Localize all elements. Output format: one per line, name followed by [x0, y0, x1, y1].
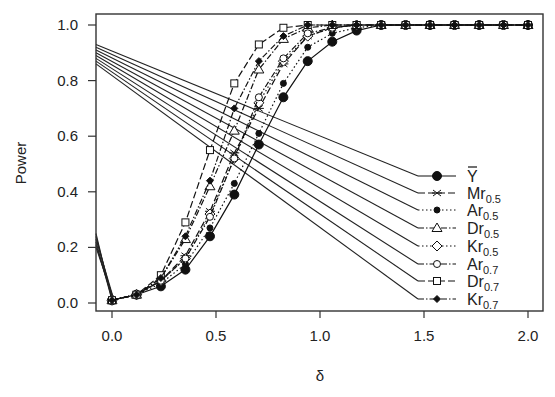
- marker-filled-circle: [303, 57, 312, 66]
- marker-dot: [434, 207, 440, 213]
- legend-label-subscript: 0.5: [483, 210, 498, 222]
- marker-square: [182, 219, 189, 226]
- marker-square: [206, 147, 213, 154]
- x-tick-label: 1.5: [414, 327, 435, 344]
- marker-open-circle: [304, 30, 311, 37]
- marker-filled-circle: [230, 190, 239, 199]
- marker-dot: [256, 130, 262, 136]
- legend-label-main: Dr: [467, 273, 485, 290]
- x-tick-label: 2.0: [518, 327, 539, 344]
- legend-label-main: Y: [467, 168, 478, 185]
- legend-label-subscript: 0.7: [483, 299, 498, 311]
- marker-open-circle: [231, 155, 238, 162]
- marker-open-circle: [280, 55, 287, 62]
- marker-filled-circle: [254, 140, 263, 149]
- marker-open-circle: [255, 94, 262, 101]
- legend-label-subscript: 0.5: [484, 228, 499, 240]
- power-chart: 0.00.51.01.52.0 0.00.20.40.60.81.0 δ Pow…: [0, 0, 555, 397]
- marker-dot: [305, 44, 311, 50]
- x-tick-label: 0.0: [102, 327, 123, 344]
- legend-label-main: Ar: [467, 202, 484, 219]
- y-tick-label: 0.4: [57, 183, 78, 200]
- marker-dot: [280, 80, 286, 86]
- legend-label-main: Kr: [467, 291, 484, 308]
- y-tick-label: 0.8: [57, 72, 78, 89]
- y-tick-label: 0.2: [57, 238, 78, 255]
- marker-open-circle: [434, 261, 441, 268]
- legend-label-main: Dr: [467, 220, 485, 237]
- x-axis-title: δ: [316, 367, 324, 384]
- legend-label-main: Mr: [467, 185, 486, 202]
- legend-label-main: Ar: [467, 256, 484, 273]
- x-tick-label: 1.0: [310, 327, 331, 344]
- marker-open-circle: [206, 213, 213, 220]
- legend-label-subscript: 0.5: [483, 246, 498, 258]
- marker-open-circle: [182, 255, 189, 262]
- marker-dot: [207, 225, 213, 231]
- y-tick-label: 0.6: [57, 127, 78, 144]
- marker-dot: [231, 180, 237, 186]
- marker-filled-circle: [279, 93, 288, 102]
- marker-square: [434, 278, 441, 285]
- marker-square: [280, 24, 287, 31]
- legend-label: Y: [467, 168, 478, 185]
- legend-label-main: Kr: [467, 238, 484, 255]
- marker-square: [255, 41, 262, 48]
- legend-label-subscript: 0.7: [484, 281, 499, 293]
- x-tick-label: 0.5: [206, 327, 227, 344]
- y-tick-label: 1.0: [57, 16, 78, 33]
- y-tick-label: 0.0: [57, 294, 78, 311]
- y-axis-title: Power: [12, 142, 29, 185]
- marker-filled-circle: [433, 172, 442, 181]
- legend-label-subscript: 0.5: [486, 193, 501, 205]
- marker-square: [231, 80, 238, 87]
- marker-filled-circle: [328, 37, 337, 46]
- legend-label-subscript: 0.7: [483, 264, 498, 276]
